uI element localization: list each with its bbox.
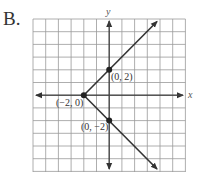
- x-axis-label: x: [187, 89, 193, 100]
- point-label-0-2: (0, 2): [111, 71, 133, 83]
- point-label-0-neg2: (0, −2): [81, 121, 108, 133]
- coordinate-plane: y x (0, 2) (−2, 0) (0, −2): [0, 0, 203, 177]
- point-label-vertex: (−2, 0): [56, 97, 83, 109]
- y-axis-label: y: [105, 6, 111, 17]
- upper-ray: [84, 22, 157, 96]
- lower-ray: [84, 95, 157, 169]
